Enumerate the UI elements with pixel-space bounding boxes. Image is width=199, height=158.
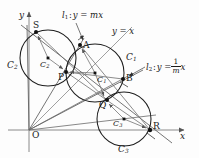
tick-at-R bbox=[147, 133, 155, 139]
circle-label-C2-text: C bbox=[7, 60, 14, 70]
radius-C2-to-S bbox=[38, 36, 48, 58]
point-label-Q: Q bbox=[99, 101, 106, 110]
circle-label-C3: C3 bbox=[118, 145, 129, 155]
point-label-B: B bbox=[126, 74, 133, 83]
line-label-y-equals-x: y = x bbox=[112, 27, 134, 36]
center-dot-C3 bbox=[123, 118, 126, 121]
point-label-S: S bbox=[33, 21, 39, 30]
radius-C3-to-Q bbox=[109, 104, 124, 119]
center-label-C2-sub: 2 bbox=[46, 63, 49, 69]
radius-C2-to-P bbox=[48, 58, 63, 69]
center-dot-C2 bbox=[47, 57, 50, 60]
center-dot-C1 bbox=[94, 72, 97, 75]
line-label-l2: l2 : y =1mx bbox=[146, 58, 185, 75]
circle-label-C1-sub: 1 bbox=[133, 56, 137, 62]
dot-S bbox=[34, 30, 38, 34]
ray-O-lower bbox=[29, 115, 156, 130]
line-label-l2-lead: y = bbox=[157, 62, 172, 72]
line-label-l1-equation: y = mx bbox=[73, 10, 103, 20]
geometry-figure: y x O S A P B Q R C1 C2 C3 C1 C2 C3 l1 :… bbox=[0, 0, 199, 158]
point-label-P: P bbox=[58, 73, 64, 82]
circle-label-C1-text: C bbox=[126, 52, 133, 62]
center-dots-group bbox=[47, 57, 126, 121]
circle-label-C2-sub: 2 bbox=[14, 64, 18, 70]
chord-A-to-R bbox=[80, 45, 150, 130]
center-label-C3-sub: 3 bbox=[119, 122, 122, 128]
circle-label-C1: C1 bbox=[126, 53, 137, 63]
dot-A bbox=[78, 43, 82, 47]
origin-label: O bbox=[32, 131, 39, 140]
point-label-A: A bbox=[83, 41, 90, 50]
x-axis-label: x bbox=[180, 132, 185, 141]
line-label-l1: l1 : y = mx bbox=[62, 11, 103, 21]
point-label-R: R bbox=[153, 122, 160, 131]
dot-R bbox=[148, 128, 152, 132]
center-label-C1-sub: 1 bbox=[103, 78, 106, 84]
center-label-C2: C2 bbox=[40, 61, 49, 69]
circle-label-C2: C2 bbox=[7, 61, 18, 71]
circle-label-C3-text: C bbox=[118, 144, 125, 154]
y-axis-label: y bbox=[19, 11, 24, 20]
line-label-l2-denominator: m bbox=[171, 67, 180, 75]
line-label-l2-fraction: 1m bbox=[171, 58, 180, 75]
circle-label-C3-sub: 3 bbox=[125, 148, 129, 154]
center-label-C1: C1 bbox=[97, 76, 106, 84]
center-label-C3: C3 bbox=[113, 120, 122, 128]
leader-l1 bbox=[76, 23, 83, 40]
dot-P bbox=[64, 70, 68, 74]
dot-B bbox=[121, 77, 125, 81]
line-label-l2-tail: x bbox=[181, 62, 186, 72]
